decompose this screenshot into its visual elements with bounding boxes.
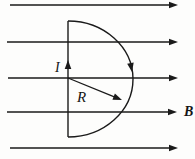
field-line-arrowhead	[169, 2, 178, 9]
arc-current-arrowhead	[127, 63, 135, 73]
field-line-arrowhead	[169, 39, 178, 46]
diagram-canvas: I R B	[0, 0, 195, 159]
field-label: B	[183, 104, 193, 119]
radius-arrowhead	[112, 94, 123, 104]
field-lines-group	[7, 2, 178, 152]
current-label: I	[54, 60, 61, 75]
current-direction-arrowhead	[65, 60, 72, 69]
field-line-arrowhead	[169, 75, 178, 82]
field-line-arrowhead	[169, 145, 178, 152]
radius-arrow-line	[68, 78, 116, 97]
magnetic-field-diagram: I R B	[0, 0, 195, 159]
semicircular-loop-group	[65, 21, 136, 137]
radius-label: R	[76, 89, 86, 105]
loop-arc	[68, 21, 133, 137]
field-line-arrowhead	[168, 109, 177, 116]
